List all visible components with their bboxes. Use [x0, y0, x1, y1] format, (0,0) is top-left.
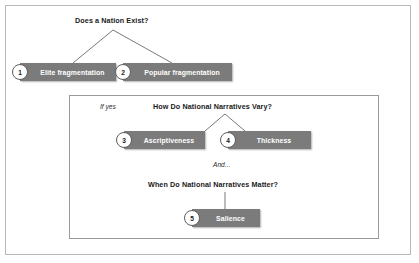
node-number-badge: 1	[12, 64, 28, 80]
node-label: Salience	[192, 209, 260, 227]
node-4-thickness[interactable]: Thickness 4	[228, 131, 311, 149]
node-5-salience[interactable]: Salience 5	[192, 209, 260, 227]
node-label: Thickness	[228, 131, 311, 149]
heading-how-do-national-narratives-vary: How Do National Narratives Vary?	[153, 102, 272, 111]
note-and: And...	[213, 161, 230, 168]
node-number-badge: 2	[115, 64, 131, 80]
node-number-badge: 4	[220, 132, 236, 148]
node-number-badge: 3	[116, 132, 132, 148]
heading-does-a-nation-exist: Does a Nation Exist?	[75, 16, 149, 25]
diagram-canvas: Does a Nation Exist? Elite fragmentation…	[0, 0, 419, 263]
node-2-popular-fragmentation[interactable]: Popular fragmentation 2	[123, 63, 232, 81]
heading-when-do-national-narratives-matter: When Do National Narratives Matter?	[148, 180, 278, 189]
node-number-badge: 5	[184, 210, 200, 226]
node-label: Elite fragmentation	[20, 63, 116, 81]
note-if-yes: If yes	[100, 103, 116, 110]
node-1-elite-fragmentation[interactable]: Elite fragmentation 1	[20, 63, 116, 81]
node-label: Popular fragmentation	[123, 63, 232, 81]
node-label: Ascriptiveness	[124, 131, 205, 149]
node-3-ascriptiveness[interactable]: Ascriptiveness 3	[124, 131, 205, 149]
